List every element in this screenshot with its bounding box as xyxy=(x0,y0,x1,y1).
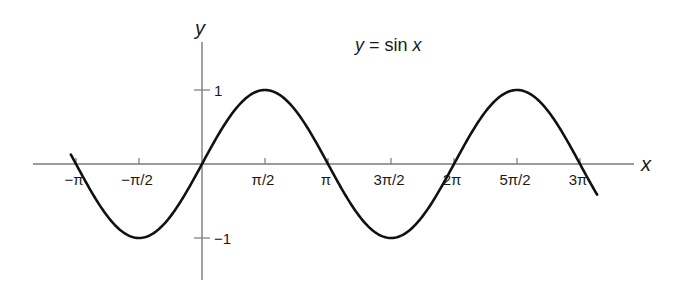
x-tick-label: π/2 xyxy=(252,171,275,188)
title-x: x xyxy=(412,35,423,55)
x-tick-label: −π/2 xyxy=(121,171,153,188)
x-tick-label: 5π/2 xyxy=(499,171,530,188)
sine-chart: x y y = sin x −π−π/2π/2π3π/22π5π/23π 1−1 xyxy=(0,0,681,294)
x-axis-label: x xyxy=(640,153,652,175)
title-eq: = sin xyxy=(364,35,413,55)
x-tick-label: 3π/2 xyxy=(373,171,404,188)
chart-title: y = sin x xyxy=(353,35,423,55)
y-axis-label: y xyxy=(193,17,206,39)
x-tick-label: π xyxy=(321,171,331,188)
y-tick-label: 1 xyxy=(214,82,222,99)
y-tick-label: −1 xyxy=(214,230,231,247)
